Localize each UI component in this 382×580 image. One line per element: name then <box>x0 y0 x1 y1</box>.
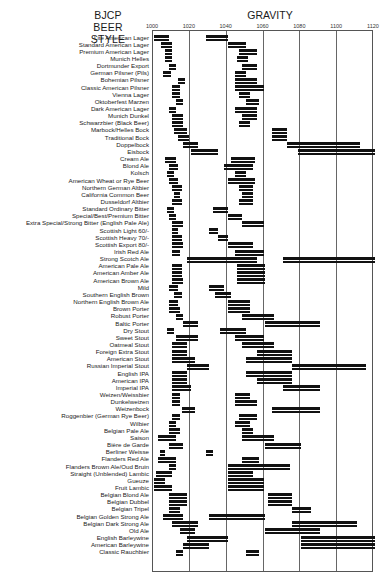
final-gravity-bar <box>172 385 190 391</box>
final-gravity-bar <box>156 471 173 477</box>
final-gravity-bar <box>154 35 169 41</box>
original-gravity-bar <box>228 485 265 491</box>
style-label: Saison <box>130 434 149 441</box>
style-label: Dusseldorf Altbier <box>101 198 150 205</box>
final-gravity-bar <box>172 199 181 205</box>
style-label: Roggenbier (German Rye Beer) <box>61 412 149 419</box>
original-gravity-bar <box>242 428 253 434</box>
style-label: Scottish Light 60/- <box>99 227 149 234</box>
final-gravity-bar <box>169 307 180 313</box>
style-label: Old Ale <box>129 527 149 534</box>
style-label: Oatmeal Stout <box>109 341 149 348</box>
original-gravity-bar <box>228 42 246 48</box>
final-gravity-bar <box>167 328 174 334</box>
original-gravity-bar <box>215 292 232 298</box>
original-gravity-bar <box>292 507 310 513</box>
gravity-axis-title: GRAVITY <box>230 9 310 21</box>
style-label: American Amber Ale <box>93 269 149 276</box>
original-gravity-bar <box>257 350 292 356</box>
x-tick-label: 1100 <box>330 23 342 29</box>
style-label: Northern German Altbier <box>82 184 149 191</box>
style-label: Marbock/Helles Bock <box>91 126 149 133</box>
final-gravity-bar <box>163 71 170 77</box>
original-gravity-bar <box>239 92 250 98</box>
style-label: Cream Ale <box>120 155 149 162</box>
original-gravity-bar <box>283 385 320 391</box>
style-label: Kolsch <box>130 169 149 176</box>
original-gravity-bar <box>257 378 292 384</box>
original-gravity-bar <box>235 78 257 84</box>
style-label: Weizen/Weissbier <box>100 391 149 398</box>
style-label: Fruit Lambic <box>115 484 149 491</box>
final-gravity-bar <box>187 536 228 542</box>
final-gravity-bar <box>165 157 176 163</box>
original-gravity-bar <box>239 199 254 205</box>
final-gravity-bar <box>172 85 179 91</box>
style-label: Sweet Stout <box>116 334 149 341</box>
original-gravity-bar <box>209 514 264 520</box>
final-gravity-bar <box>167 207 174 213</box>
style-label: Foreign Extra Stout <box>96 348 149 355</box>
style-label: California Common Beer <box>81 191 149 198</box>
style-label: American Brown Ale <box>93 277 149 284</box>
gridline <box>189 31 190 571</box>
original-gravity-bar <box>265 443 302 449</box>
x-tick-label: 1000 <box>146 23 158 29</box>
style-label: Russian Imperial Stout <box>87 362 149 369</box>
original-gravity-bar <box>235 393 250 399</box>
style-label: Dunkelweizen <box>110 398 149 405</box>
original-gravity-bar <box>228 300 250 306</box>
style-label: German Pilsner (Pils) <box>90 69 149 76</box>
final-gravity-bar <box>176 99 183 105</box>
style-label: Eisbock <box>127 148 149 155</box>
final-gravity-bar <box>169 64 176 70</box>
style-label: Scottish Heavy 70/- <box>95 234 149 241</box>
style-label: Premium American Lager <box>79 48 149 55</box>
original-gravity-bar <box>228 178 256 184</box>
final-gravity-bar <box>169 500 187 506</box>
style-label: Classic Rauchbier <box>99 548 149 555</box>
original-gravity-bar <box>265 321 320 327</box>
original-gravity-bar <box>237 278 265 284</box>
style-label: Lite American Lager <box>94 34 149 41</box>
original-gravity-bar <box>237 271 265 277</box>
final-gravity-bar <box>160 450 166 456</box>
style-label: Belgian Blond Ale <box>100 491 149 498</box>
original-gravity-bar <box>268 500 292 506</box>
original-gravity-bar <box>218 235 227 241</box>
final-gravity-bar <box>154 478 165 484</box>
final-gravity-bar <box>172 393 179 399</box>
original-gravity-bar <box>242 435 273 441</box>
final-gravity-bar <box>172 221 183 227</box>
final-gravity-bar <box>172 378 187 384</box>
style-label: Dortmunder Export <box>97 62 149 69</box>
original-gravity-bar <box>231 157 255 163</box>
original-gravity-bar <box>239 185 254 191</box>
original-gravity-bar <box>224 164 253 170</box>
final-gravity-bar <box>172 185 181 191</box>
original-gravity-bar <box>272 407 320 413</box>
final-gravity-bar <box>172 250 179 256</box>
original-gravity-bar <box>268 493 292 499</box>
style-label: Irish Red Ale <box>114 248 149 255</box>
original-gravity-bar <box>239 414 257 420</box>
original-gravity-bar <box>228 471 254 477</box>
final-gravity-bar <box>163 514 183 520</box>
original-gravity-bar <box>298 149 375 155</box>
style-label: Baltic Porter <box>115 320 149 327</box>
original-gravity-bar <box>239 49 257 55</box>
style-label: Strong Scotch Ale <box>100 255 149 262</box>
style-label: Weizenbock <box>115 405 149 412</box>
style-label: Dark American Lager <box>91 105 149 112</box>
style-label: Robust Porter <box>111 312 149 319</box>
final-gravity-bar <box>178 135 189 141</box>
style-label: Special/Best/Premium Bitter <box>72 212 149 219</box>
final-gravity-bar <box>187 257 257 263</box>
original-gravity-bar <box>235 171 246 177</box>
final-gravity-bar <box>169 464 176 470</box>
final-gravity-bar <box>161 42 172 48</box>
style-label: American Wheat or Rye Beer <box>69 177 149 184</box>
final-gravity-bar <box>169 493 187 499</box>
final-gravity-bar <box>172 400 179 406</box>
original-gravity-bar <box>292 521 356 527</box>
